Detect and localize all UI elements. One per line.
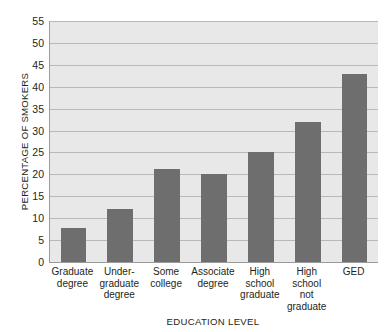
bar (61, 228, 87, 262)
x-tick-label-line: school (236, 278, 283, 290)
y-tick-label: 10 (20, 213, 44, 224)
plot-area (49, 21, 378, 263)
bar (295, 122, 321, 262)
y-tick-label: 55 (20, 16, 44, 27)
gridline (50, 131, 378, 132)
gridline (50, 21, 378, 22)
x-tick-label-line: Graduate (49, 266, 96, 278)
x-tick-label: GED (330, 266, 377, 278)
bar (154, 169, 180, 262)
x-tick-label-line: degree (190, 278, 237, 290)
y-tick-label: 0 (20, 257, 44, 268)
x-tick-label-line: not (283, 289, 330, 301)
y-tick-label: 5 (20, 235, 44, 246)
bar (248, 152, 274, 262)
x-tick-label-line: graduate (283, 301, 330, 313)
x-tick-label: Associatedegree (190, 266, 237, 289)
x-tick-label-line: Under- (96, 266, 143, 278)
gridline (50, 152, 378, 153)
x-tick-label: Graduatedegree (49, 266, 96, 289)
y-tick-label: 25 (20, 147, 44, 158)
x-tick-label-line: school (283, 278, 330, 290)
gridline (50, 109, 378, 110)
bar (107, 209, 133, 262)
y-tick-label: 35 (20, 104, 44, 115)
x-axis-title: EDUCATION LEVEL (49, 316, 377, 327)
x-tick-label: Highschoolgraduate (236, 266, 283, 301)
gridline (50, 43, 378, 44)
y-tick-label: 15 (20, 191, 44, 202)
y-tick-label: 30 (20, 126, 44, 137)
x-tick-label: Highschoolnotgraduate (283, 266, 330, 312)
x-tick-label-line: college (143, 278, 190, 290)
x-tick-label-line: GED (330, 266, 377, 278)
gridline (50, 87, 378, 88)
bar (342, 74, 368, 262)
y-tick-label: 45 (20, 60, 44, 71)
y-tick-label: 40 (20, 82, 44, 93)
x-tick-label-line: graduate (236, 289, 283, 301)
x-tick-label-line: degree (96, 289, 143, 301)
bar (201, 174, 227, 262)
x-tick-label-line: graduate (96, 278, 143, 290)
x-tick-label-line: Associate (190, 266, 237, 278)
x-tick-label: Under-graduatedegree (96, 266, 143, 301)
x-tick-label-line: High (236, 266, 283, 278)
x-tick-label-line: degree (49, 278, 96, 290)
x-tick-label-line: High (283, 266, 330, 278)
y-tick-label: 50 (20, 38, 44, 49)
bar-chart-figure: PERCENTAGE OF SMOKERS 051015202530354045… (0, 0, 389, 332)
gridline (50, 65, 378, 66)
x-tick-label: Somecollege (143, 266, 190, 289)
y-tick-label: 20 (20, 169, 44, 180)
x-tick-label-line: Some (143, 266, 190, 278)
